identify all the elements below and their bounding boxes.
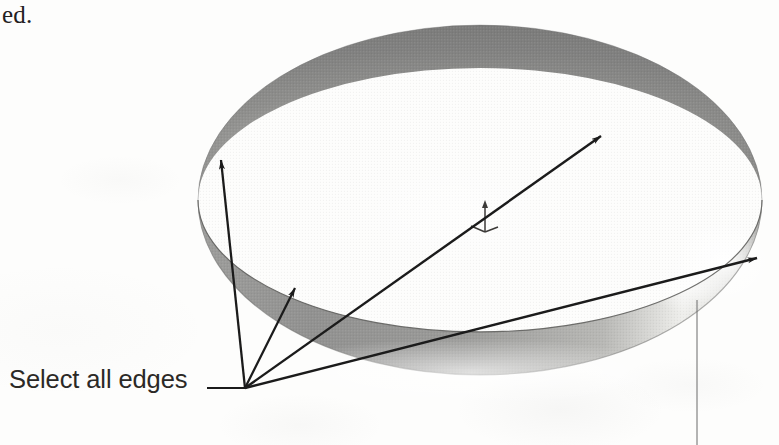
callout-label: Select all edges [9,367,187,393]
figure-root: ed. [0,0,779,445]
paper-glare-under-dome [260,338,680,406]
top-surface-highlight [334,156,570,268]
dome-solid[interactable] [198,25,774,375]
